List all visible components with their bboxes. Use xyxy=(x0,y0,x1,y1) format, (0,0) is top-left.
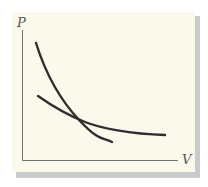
pv-diagram xyxy=(0,0,208,187)
x-axis-label: V xyxy=(182,153,191,166)
shallow-curve xyxy=(38,96,165,135)
y-axis-label: P xyxy=(17,16,26,29)
